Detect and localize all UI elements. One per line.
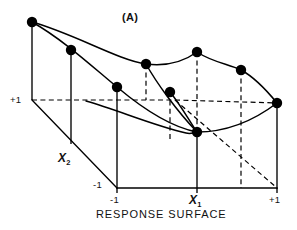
x2-axis-name-subscript: 2 <box>66 158 70 167</box>
figure-caption: RESPONSE SURFACE <box>96 209 227 220</box>
response-surface-figure: (A) +1 X2 -1 -1 X1 +1 RESPONSE SURFACE <box>0 0 297 230</box>
curve-interior-fall-line <box>146 64 197 132</box>
design-point-marker <box>112 82 122 92</box>
vertical-posts <box>32 22 197 188</box>
design-point-marker <box>272 98 282 108</box>
design-point-marker <box>165 87 175 97</box>
design-point-marker <box>192 47 202 57</box>
curve-back-ridge <box>32 22 197 65</box>
design-point-marker <box>236 65 246 75</box>
curve-left-profile <box>32 22 197 132</box>
x2-axis-tick-high-label: +1 <box>10 95 21 105</box>
base-plane-frame <box>32 100 277 188</box>
panel-label: (A) <box>122 12 138 23</box>
design-point-marker <box>192 127 202 137</box>
design-point-marker <box>66 45 76 55</box>
dashed-hidden-base-edge-back <box>175 100 277 103</box>
x2-axis-name: X2 <box>58 152 71 167</box>
x1-axis-name: X1 <box>189 194 202 209</box>
x2-axis-tick-low-label: -1 <box>93 180 102 190</box>
design-point-marker <box>27 17 37 27</box>
base-edge-left-receding <box>32 100 117 188</box>
surface-plot-canvas <box>0 0 297 230</box>
curve-front-valley <box>197 103 277 132</box>
curve-interior-through-center <box>170 92 197 132</box>
curve-right-profile <box>197 52 277 103</box>
x1-axis-tick-high-label: +1 <box>269 195 280 205</box>
x1-axis-tick-low-label: -1 <box>110 195 119 205</box>
design-point-marker <box>141 59 151 69</box>
surface-curves <box>32 22 277 133</box>
